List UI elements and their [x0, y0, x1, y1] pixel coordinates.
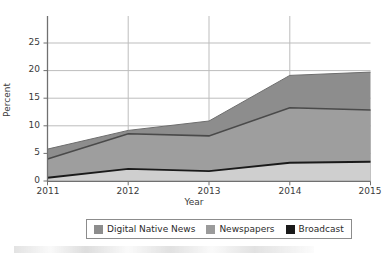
x-tick-label-2015: 2015 [353, 186, 387, 196]
chart-figure: 25 20 15 10 5 0 Percent 2011 2012 2013 2… [0, 0, 388, 254]
legend-swatch-icon-digital-native-news [94, 225, 103, 234]
y-tick-label-5: 5 [18, 147, 40, 157]
page-scan-artifact [14, 246, 314, 253]
y-tick-label-10: 10 [18, 120, 40, 130]
x-tick-label-2013: 2013 [192, 186, 226, 196]
legend-entry-digital-native-news[interactable]: Digital Native News [94, 224, 195, 234]
y-tick-label-0: 0 [18, 175, 40, 185]
stacked-area-chart [0, 0, 388, 254]
legend-entry-broadcast[interactable]: Broadcast [286, 224, 344, 234]
y-tick-label-15: 15 [18, 92, 40, 102]
legend-label-newspapers: Newspapers [219, 224, 274, 234]
chart-legend: Digital Native News Newspapers Broadcast [86, 219, 352, 239]
legend-label-broadcast: Broadcast [299, 224, 344, 234]
x-tick-label-2011: 2011 [31, 186, 65, 196]
y-tick-label-25: 25 [18, 37, 40, 47]
x-axis-title: Year [0, 197, 388, 207]
legend-swatch-icon-newspapers [206, 225, 215, 234]
x-tick-label-2012: 2012 [111, 186, 145, 196]
legend-label-digital-native-news: Digital Native News [107, 224, 195, 234]
y-axis-title: Percent [2, 70, 12, 130]
legend-entry-newspapers[interactable]: Newspapers [206, 224, 274, 234]
y-tick-label-20: 20 [18, 64, 40, 74]
legend-swatch-icon-broadcast [286, 225, 295, 234]
x-tick-label-2014: 2014 [273, 186, 307, 196]
